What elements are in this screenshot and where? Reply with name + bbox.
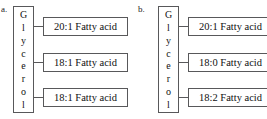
fatty-acid-label: 20:1 Fatty acid	[54, 21, 117, 33]
ester-bond-connector	[34, 97, 43, 98]
glycerol-letter: r	[167, 73, 170, 84]
ester-bond-connector	[179, 26, 188, 27]
fatty-acid-box: 18:1 Fatty acid	[43, 88, 128, 107]
ester-bond-connector	[179, 62, 188, 63]
fatty-acid-label: 18:2 Fatty acid	[199, 92, 262, 104]
fatty-acid-box: 18:0 Fatty acid	[188, 53, 267, 72]
fatty-acid-label: 18:0 Fatty acid	[199, 57, 262, 69]
fatty-acid-label: 18:1 Fatty acid	[54, 57, 117, 69]
fatty-acid-label: 20:1 Fatty acid	[199, 21, 262, 33]
fatty-acid-box: 18:1 Fatty acid	[43, 53, 128, 72]
glycerol-letter: y	[166, 35, 171, 46]
glycerol-letter: y	[21, 35, 26, 46]
glycerol-letter: G	[165, 9, 172, 20]
panel-a-label: a.	[1, 4, 7, 14]
ester-bond-connector	[179, 97, 188, 98]
panel-b-glycerol-box: G l y c e r o l	[158, 6, 179, 113]
glycerol-letter: o	[166, 86, 171, 97]
glycerol-letter: c	[21, 48, 25, 59]
glycerol-letter: r	[22, 73, 25, 84]
triglyceride-diagram: a. G l y c e r o l 20:1 Fatty acid 18:1 …	[0, 0, 267, 119]
ester-bond-connector	[34, 26, 43, 27]
glycerol-letter: G	[20, 9, 27, 20]
fatty-acid-box: 20:1 Fatty acid	[43, 17, 128, 36]
ester-bond-connector	[34, 62, 43, 63]
fatty-acid-label: 18:1 Fatty acid	[54, 92, 117, 104]
glycerol-letter: e	[21, 60, 25, 71]
glycerol-letter: l	[22, 99, 25, 110]
panel-a-glycerol-box: G l y c e r o l	[13, 6, 34, 113]
glycerol-letter: o	[21, 86, 26, 97]
glycerol-letter: l	[167, 22, 170, 33]
glycerol-letter: l	[167, 99, 170, 110]
glycerol-letter: e	[166, 60, 170, 71]
panel-b: b. G l y c e r o l 20:1 Fatty acid 18:0 …	[133, 0, 267, 119]
panel-b-label: b.	[138, 4, 145, 14]
glycerol-letter: l	[22, 22, 25, 33]
fatty-acid-box: 20:1 Fatty acid	[188, 17, 267, 36]
glycerol-letter: c	[166, 48, 170, 59]
fatty-acid-box: 18:2 Fatty acid	[188, 88, 267, 107]
panel-a: a. G l y c e r o l 20:1 Fatty acid 18:1 …	[0, 0, 133, 119]
